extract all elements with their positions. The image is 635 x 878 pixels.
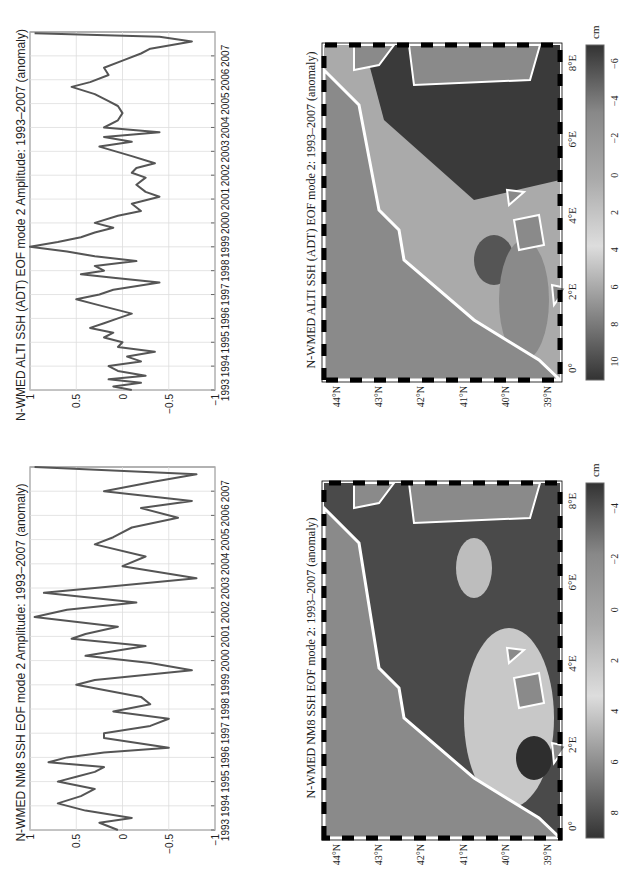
svg-text:2000: 2000 bbox=[220, 211, 231, 234]
svg-text:43°N: 43°N bbox=[373, 386, 384, 407]
svg-text:1: 1 bbox=[25, 394, 36, 400]
svg-text:2: 2 bbox=[609, 658, 620, 663]
svg-text:2000: 2000 bbox=[220, 649, 231, 672]
alti-eof-map: N-WMED ALTI SSH (ADT) EOF mode 2: 1993–2… bbox=[302, 0, 635, 420]
svg-text:0.5: 0.5 bbox=[71, 834, 82, 848]
nm8-eof-map: N-WMED NM8 SSH EOF mode 2: 1993–2007 (an… bbox=[302, 438, 635, 878]
svg-text:42°N: 42°N bbox=[415, 844, 426, 865]
svg-text:43°N: 43°N bbox=[373, 844, 384, 865]
svg-text:40°N: 40°N bbox=[500, 386, 511, 407]
svg-text:1997: 1997 bbox=[220, 722, 231, 745]
svg-text:1: 1 bbox=[25, 834, 36, 840]
svg-text:2: 2 bbox=[609, 210, 620, 215]
svg-text:2005: 2005 bbox=[220, 528, 231, 551]
svg-text:1995: 1995 bbox=[220, 770, 231, 793]
svg-text:2002: 2002 bbox=[220, 601, 231, 624]
svg-text:1996: 1996 bbox=[220, 307, 231, 330]
svg-text:8°E: 8°E bbox=[566, 492, 578, 509]
svg-text:40°N: 40°N bbox=[500, 844, 511, 865]
svg-text:−0.5: −0.5 bbox=[164, 834, 175, 854]
svg-text:2006: 2006 bbox=[220, 504, 231, 527]
svg-text:6°E: 6°E bbox=[566, 131, 578, 148]
alti-amplitude-plot: 1993199419951996199719981999200020012002… bbox=[0, 20, 260, 430]
svg-text:−1: −1 bbox=[210, 834, 221, 846]
svg-text:6°E: 6°E bbox=[566, 574, 578, 591]
nm8-amplitude-plot: 1993199419951996199719981999200020012002… bbox=[0, 455, 260, 870]
svg-text:−0.5: −0.5 bbox=[164, 394, 175, 414]
alti-amplitude-chart: N-WMED ALTI SSH (ADT) EOF mode 2 Amplitu… bbox=[0, 20, 260, 430]
svg-text:6: 6 bbox=[609, 284, 620, 289]
nm8-amplitude-chart: N-WMED NM8 SSH EOF mode 2 Amplitude: 199… bbox=[0, 455, 260, 870]
svg-text:0°: 0° bbox=[566, 363, 578, 373]
svg-text:cm: cm bbox=[589, 463, 601, 477]
svg-text:0°: 0° bbox=[566, 821, 578, 831]
svg-text:1994: 1994 bbox=[220, 794, 231, 817]
svg-text:2006: 2006 bbox=[220, 68, 231, 91]
svg-text:2005: 2005 bbox=[220, 92, 231, 115]
svg-text:2003: 2003 bbox=[220, 140, 231, 163]
alti-map-field: 0°2°E4°E6°E8°E44°N43°N42°N41°N40°N39°N10… bbox=[302, 0, 635, 420]
svg-text:−4: −4 bbox=[609, 96, 620, 107]
svg-text:−4: −4 bbox=[609, 503, 620, 514]
svg-text:2004: 2004 bbox=[220, 552, 231, 575]
svg-text:−2: −2 bbox=[609, 554, 620, 565]
svg-text:0: 0 bbox=[609, 173, 620, 178]
svg-text:6: 6 bbox=[609, 759, 620, 764]
svg-text:4°E: 4°E bbox=[566, 207, 578, 224]
svg-text:2°E: 2°E bbox=[566, 283, 578, 300]
svg-text:1998: 1998 bbox=[220, 259, 231, 282]
svg-text:4°E: 4°E bbox=[566, 655, 578, 672]
svg-text:10: 10 bbox=[609, 356, 620, 366]
svg-text:8: 8 bbox=[609, 810, 620, 815]
svg-text:41°N: 41°N bbox=[458, 844, 469, 865]
svg-text:44°N: 44°N bbox=[331, 386, 342, 407]
svg-text:0: 0 bbox=[118, 394, 129, 400]
svg-text:44°N: 44°N bbox=[331, 844, 342, 865]
svg-text:8°E: 8°E bbox=[566, 54, 578, 71]
svg-text:−6: −6 bbox=[609, 58, 620, 69]
svg-text:4: 4 bbox=[609, 709, 620, 714]
svg-text:39°N: 39°N bbox=[542, 386, 553, 407]
svg-text:42°N: 42°N bbox=[415, 386, 426, 407]
svg-text:0: 0 bbox=[118, 834, 129, 840]
svg-text:2002: 2002 bbox=[220, 164, 231, 187]
svg-text:4: 4 bbox=[609, 247, 620, 252]
svg-text:1994: 1994 bbox=[220, 355, 231, 378]
svg-text:39°N: 39°N bbox=[542, 844, 553, 865]
svg-text:2004: 2004 bbox=[220, 116, 231, 139]
svg-text:1997: 1997 bbox=[220, 283, 231, 306]
svg-text:2°E: 2°E bbox=[566, 736, 578, 753]
svg-text:41°N: 41°N bbox=[458, 386, 469, 407]
svg-text:2007: 2007 bbox=[220, 480, 231, 503]
svg-text:1993: 1993 bbox=[220, 378, 231, 401]
svg-text:0.5: 0.5 bbox=[71, 394, 82, 408]
svg-text:2001: 2001 bbox=[220, 188, 231, 211]
svg-text:8: 8 bbox=[609, 322, 620, 327]
svg-text:2003: 2003 bbox=[220, 576, 231, 599]
nm8-map-field: 0°2°E4°E6°E8°E44°N43°N42°N41°N40°N39°N86… bbox=[302, 438, 635, 878]
svg-text:−1: −1 bbox=[210, 394, 221, 406]
svg-text:1995: 1995 bbox=[220, 331, 231, 354]
svg-text:1999: 1999 bbox=[220, 235, 231, 258]
svg-text:2007: 2007 bbox=[220, 44, 231, 67]
svg-text:0: 0 bbox=[609, 607, 620, 612]
svg-text:cm: cm bbox=[589, 25, 601, 39]
svg-text:1996: 1996 bbox=[220, 746, 231, 769]
svg-text:1999: 1999 bbox=[220, 673, 231, 696]
svg-text:−2: −2 bbox=[609, 133, 620, 144]
svg-text:1998: 1998 bbox=[220, 697, 231, 720]
svg-text:2001: 2001 bbox=[220, 625, 231, 648]
svg-text:1993: 1993 bbox=[220, 818, 231, 841]
